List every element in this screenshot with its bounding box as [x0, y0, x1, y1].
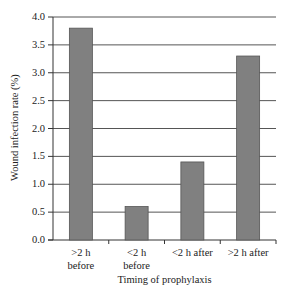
y-tick-label: 0.5	[15, 206, 45, 218]
bar	[69, 28, 92, 240]
x-axis-title: Timing of prophylaxis	[53, 274, 276, 285]
bar	[237, 56, 260, 240]
bar	[125, 207, 148, 240]
y-tick-label: 3.5	[15, 39, 45, 51]
y-tick-label: 3.0	[15, 67, 45, 79]
x-category-label: <2 h after	[162, 246, 222, 259]
bar-chart: 0.00.51.01.52.02.53.03.54.0 >2 hbefore<2…	[0, 0, 286, 294]
bar	[181, 162, 204, 240]
y-tick-label: 4.0	[15, 11, 45, 23]
y-axis-title: Wound infection rate (%)	[9, 47, 20, 207]
y-tick-label: 1.0	[15, 178, 45, 190]
x-category-label: >2 hbefore	[51, 246, 111, 272]
y-tick-label: 1.5	[15, 150, 45, 162]
y-tick-label: 2.0	[15, 123, 45, 135]
y-tick-label: 0.0	[15, 234, 45, 246]
x-category-label: <2 hbefore	[107, 246, 167, 272]
x-category-label: >2 h after	[218, 246, 278, 259]
y-tick-label: 2.5	[15, 95, 45, 107]
